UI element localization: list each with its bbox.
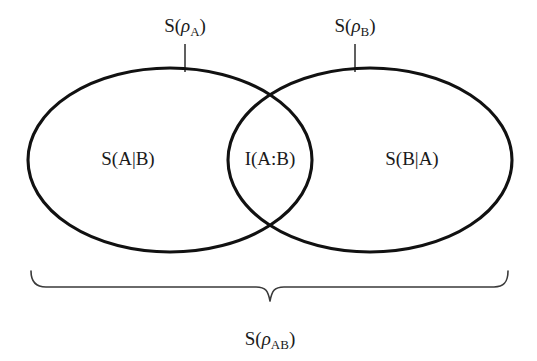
- label-entropy-rho-b: S(ρB): [334, 15, 375, 39]
- label-entropy-rho-a: S(ρA): [164, 15, 206, 39]
- label-entropy-rho-b-subscript: B: [361, 24, 370, 39]
- label-entropy-rho-b-symbol: ρ: [350, 15, 360, 36]
- label-entropy-rho-a-suffix: ): [200, 15, 206, 37]
- underbrace-total-entropy: [31, 271, 508, 301]
- label-entropy-rho-ab-suffix: ): [289, 328, 295, 350]
- region-label-conditional-b-given-a: S(B|A): [385, 148, 438, 170]
- label-entropy-rho-ab-symbol: ρ: [261, 328, 271, 349]
- label-entropy-rho-b-suffix: ): [369, 15, 375, 37]
- label-entropy-rho-a-prefix: S(: [164, 15, 181, 37]
- region-label-mutual-information: I(A:B): [245, 148, 296, 170]
- region-label-conditional-a-given-b: S(A|B): [101, 148, 154, 170]
- venn-diagram-figure: S(ρA) S(ρB) S(A|B) I(A:B) S(B|A) S(ρAB): [0, 0, 537, 361]
- label-entropy-rho-a-symbol: ρ: [180, 15, 190, 36]
- label-entropy-rho-ab: S(ρAB): [245, 328, 295, 352]
- label-entropy-rho-b-prefix: S(: [334, 15, 351, 37]
- label-entropy-rho-ab-subscript: AB: [271, 337, 289, 352]
- venn-diagram-canvas: S(ρA) S(ρB) S(A|B) I(A:B) S(B|A) S(ρAB): [0, 0, 537, 361]
- label-entropy-rho-ab-prefix: S(: [245, 328, 262, 350]
